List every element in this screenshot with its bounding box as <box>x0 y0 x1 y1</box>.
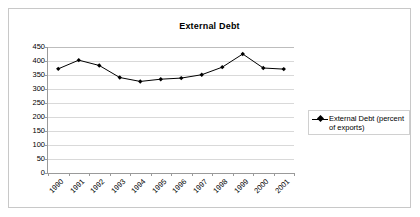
x-axis-tick-label: 2000 <box>249 177 271 199</box>
y-axis-tick-mark <box>45 75 48 76</box>
x-axis-tick-label: 1994 <box>126 177 148 199</box>
x-axis-tick-mark <box>294 173 295 176</box>
y-axis-tick-mark <box>45 131 48 132</box>
y-axis-tick-mark <box>45 89 48 90</box>
y-axis-tick-mark <box>45 117 48 118</box>
data-point-marker <box>200 73 204 77</box>
data-point-marker <box>179 76 183 80</box>
data-point-marker <box>138 79 142 83</box>
legend-label: External Debt (percent of exports) <box>329 114 407 132</box>
y-axis-tick-label: 50 <box>11 155 45 163</box>
chart-legend: External Debt (percent of exports) <box>308 110 410 135</box>
x-axis-tick-label: 2001 <box>269 177 291 199</box>
x-axis-tick-label: 1997 <box>187 177 209 199</box>
y-axis-tick-label: 350 <box>11 71 45 79</box>
y-axis-tick-mark <box>45 47 48 48</box>
y-axis-tick-mark <box>45 103 48 104</box>
data-series-layer <box>48 47 294 173</box>
legend-entry-external-debt: External Debt (percent of exports) <box>312 114 407 132</box>
y-axis-tick-label: 100 <box>11 141 45 149</box>
series-line-external-debt <box>58 54 284 81</box>
y-axis-tick-mark <box>45 145 48 146</box>
data-point-marker <box>97 63 101 67</box>
y-axis-tick-mark <box>45 159 48 160</box>
y-axis-tick-label: 0 <box>11 169 45 177</box>
x-axis-tick-label: 1991 <box>64 177 86 199</box>
y-axis-tick-label: 200 <box>11 113 45 121</box>
x-axis-tick-label: 1996 <box>167 177 189 199</box>
y-axis-tick-label: 400 <box>11 57 45 65</box>
x-axis-tick-label: 1995 <box>146 177 168 199</box>
x-axis-tick-label: 1998 <box>208 177 230 199</box>
y-axis-tick-mark <box>45 61 48 62</box>
x-axis-tick-label: 1992 <box>85 177 107 199</box>
data-point-marker <box>282 67 286 71</box>
y-axis-labels: 450400350300250200150100500 <box>9 47 45 173</box>
chart-container: External Debt 45040035030025020015010050… <box>8 8 411 208</box>
y-axis-tick-label: 450 <box>11 43 45 51</box>
legend-marker-diamond-icon <box>312 115 328 123</box>
y-axis-tick-label: 300 <box>11 85 45 93</box>
x-axis-tick-label: 1993 <box>105 177 127 199</box>
data-point-marker <box>159 77 163 81</box>
x-axis-labels: 1990199119921993199419951996199719981999… <box>47 175 293 217</box>
y-axis-tick-label: 150 <box>11 127 45 135</box>
data-point-marker <box>77 58 81 62</box>
data-point-marker <box>118 75 122 79</box>
chart-title: External Debt <box>9 21 410 31</box>
x-axis-tick-label: 1999 <box>228 177 250 199</box>
data-point-marker <box>56 67 60 71</box>
plot-area <box>47 47 294 174</box>
y-axis-tick-label: 250 <box>11 99 45 107</box>
x-axis-tick-label: 1990 <box>44 177 66 199</box>
